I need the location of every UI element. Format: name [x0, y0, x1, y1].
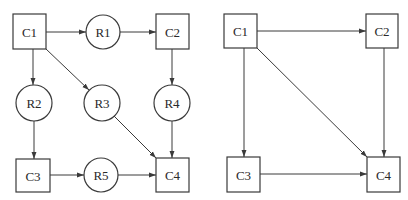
node-label: C2 [165, 25, 180, 40]
node-r1: R1 [86, 15, 120, 49]
node-label: C4 [165, 168, 181, 183]
node-c1: C1 [13, 14, 46, 49]
node-label: C3 [236, 168, 251, 183]
diagram-canvas: C1R1C2R2R3R4C3R5C4C1C2C3C4 [0, 0, 408, 200]
node-c3: C3 [227, 157, 260, 192]
left-graph-nodes: C1R1C2R2R3R4C3R5C4 [13, 14, 190, 192]
node-c2: C2 [156, 14, 189, 49]
node-label: R2 [26, 96, 41, 111]
node-label: C1 [233, 24, 248, 39]
node-c3: C3 [16, 159, 50, 192]
nodes-layer: C1R1C2R2R3R4C3R5C4C1C2C3C4 [13, 14, 400, 192]
node-label: R5 [93, 168, 108, 183]
node-label: C1 [22, 25, 37, 40]
edge-c1-to-r3 [46, 49, 89, 90]
node-c2: C2 [366, 14, 398, 48]
edge-c1-to-c4 [257, 48, 367, 157]
node-label: C4 [376, 168, 392, 183]
node-c4: C4 [156, 158, 189, 192]
node-r5: R5 [84, 158, 118, 192]
node-c4: C4 [367, 157, 400, 192]
node-label: C2 [374, 24, 389, 39]
node-r3: R3 [84, 85, 120, 121]
node-label: R4 [164, 96, 180, 111]
node-r4: R4 [154, 85, 190, 121]
edge-r3-to-c4 [114, 116, 156, 158]
right-graph-edges [244, 31, 384, 174]
node-label: C3 [25, 169, 40, 184]
node-label: R1 [95, 25, 110, 40]
node-c1: C1 [224, 14, 257, 48]
node-r2: R2 [16, 85, 52, 121]
node-label: R3 [94, 96, 109, 111]
